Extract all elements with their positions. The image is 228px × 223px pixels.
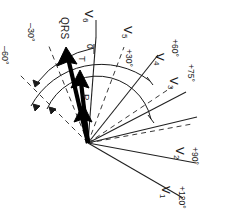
lead-label-v6-sub: 6: [81, 18, 90, 23]
vector-head-p: [74, 104, 92, 122]
lead-label-v4: V4: [152, 53, 166, 66]
lead-label-v5-name: V: [122, 26, 134, 34]
reference-angle-minus60: –60°: [0, 46, 10, 65]
arc-end-tick-c: [148, 115, 154, 123]
reference-line-dash-b: [88, 87, 172, 143]
label-t: T: [77, 56, 88, 62]
vector-head-qrs: [57, 47, 77, 66]
reference-line-dash-a: [88, 47, 124, 143]
arc-tick-low: [49, 107, 56, 114]
lead-label-v1: V1: [158, 186, 172, 199]
lead-angle-v4: +60°: [170, 39, 180, 57]
ecg-vector-diagram: QRS T P V6 0 V5 +30° V4 +60° V3 +75° V2 …: [0, 0, 228, 223]
lead-label-v3-name: V: [168, 77, 180, 85]
lead-label-v3: V3: [166, 77, 180, 90]
lead-lines: [88, 37, 197, 198]
lead-angle-v3: +75°: [186, 64, 196, 82]
lead-angle-v1: +120°: [177, 186, 187, 209]
lead-label-v2-sub: 2: [172, 155, 181, 160]
lead-label-v6: V6: [81, 10, 95, 23]
label-qrs: QRS: [59, 17, 70, 40]
reference-angle-minus30: –30°: [26, 23, 36, 42]
lead-label-v4-name: V: [154, 53, 166, 61]
lead-angle-v6: 0: [85, 44, 95, 49]
lead-angle-v2: +90°: [190, 147, 200, 165]
lead-line-v4: [88, 92, 186, 143]
lead-line-v3: [88, 117, 197, 143]
lead-label-v1-sub: 1: [158, 194, 167, 199]
lead-label-v5-sub: 5: [120, 34, 129, 39]
reference-line-dash-c: [88, 124, 192, 143]
reference-lines: [20, 44, 192, 143]
lead-label-v6-name: V: [83, 10, 95, 18]
label-p: P: [81, 94, 92, 100]
lead-label-v3-sub: 3: [166, 85, 175, 90]
lead-label-v2-name: V: [174, 147, 186, 155]
lead-label-v1-name: V: [160, 186, 172, 194]
arc-tick-mid: [33, 104, 40, 111]
lead-angle-v5: +30°: [124, 49, 134, 67]
lead-label-v2: V2: [172, 147, 186, 160]
lead-line-v6: [88, 37, 96, 143]
lead-line-v5: [88, 55, 158, 143]
lead-label-v4-sub: 4: [152, 61, 161, 66]
lead-label-v5: V5: [120, 26, 134, 39]
arc-end-tick-b: [147, 77, 153, 85]
